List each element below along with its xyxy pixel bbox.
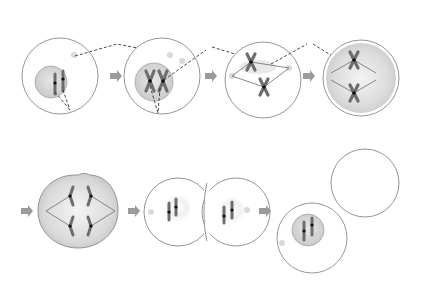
daughter-cell-1	[277, 203, 347, 273]
arrow-right-icon	[205, 70, 217, 82]
arrow-right-icon	[303, 70, 315, 82]
centrosome	[71, 52, 77, 58]
arrow-right-icon	[21, 205, 33, 217]
centrosome	[148, 209, 154, 215]
nuclear-region	[326, 43, 396, 113]
daughter-cell-2	[331, 149, 399, 217]
stage-anaphase	[38, 174, 118, 249]
stage-prophase	[124, 38, 200, 114]
stage-telophase	[144, 178, 270, 246]
centrosome	[179, 58, 185, 64]
centrosome	[167, 52, 173, 58]
stage-metaphase	[323, 40, 399, 116]
mitosis-diagram	[0, 0, 421, 297]
stage-interphase	[22, 38, 98, 114]
arrow-right-icon	[128, 205, 140, 217]
cell-membrane	[38, 174, 118, 249]
stage-cytokinesis	[277, 149, 399, 273]
centrosome	[244, 207, 250, 213]
nucleus	[135, 63, 173, 101]
arrow-right-icon	[110, 70, 122, 82]
